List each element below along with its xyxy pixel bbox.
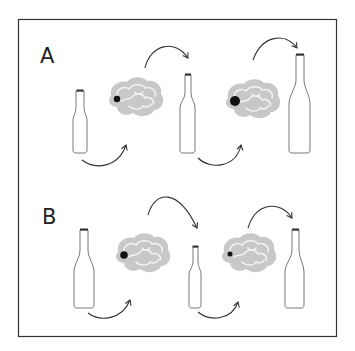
figure-diagram: A B — [0, 0, 355, 351]
activity-dot-small — [114, 96, 120, 102]
activity-dot-tiny — [228, 252, 233, 257]
panel-label-b: B — [42, 205, 56, 229]
activity-dot-large — [230, 96, 240, 106]
activity-dot-medium — [120, 251, 128, 259]
panel-label-a: A — [40, 44, 55, 68]
